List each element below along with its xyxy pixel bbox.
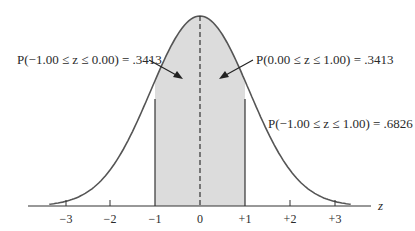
tick-label: +2	[284, 212, 297, 226]
tick-labels: −3 −2 −1 0 +1 +2 +3	[60, 212, 342, 226]
annotation-total: P(−1.00 ≤ z ≤ 1.00) = .6826	[268, 116, 413, 131]
annotation-right: P(0.00 ≤ z ≤ 1.00) = .3413	[256, 52, 394, 67]
tick-label: −1	[149, 212, 162, 226]
axis-label-z: z	[377, 198, 383, 213]
tick-label: 0	[197, 212, 203, 226]
tick-label: +1	[239, 212, 252, 226]
normal-curve-diagram: −3 −2 −1 0 +1 +2 +3 z P(−1.00 ≤ z ≤ 0.00…	[0, 0, 415, 231]
tick-label: −3	[60, 212, 73, 226]
annotation-left: P(−1.00 ≤ z ≤ 0.00) = .3413	[17, 52, 162, 67]
tick-label: −2	[104, 212, 117, 226]
tick-label: +3	[329, 212, 342, 226]
